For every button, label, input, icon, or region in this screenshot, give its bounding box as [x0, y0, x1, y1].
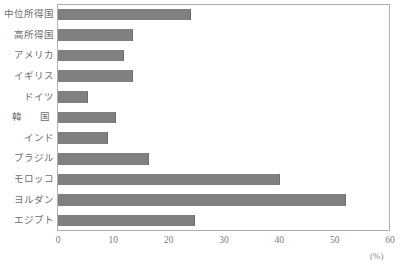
bar-track [58, 4, 390, 25]
category-label: 韓 国 [12, 107, 54, 128]
bar [58, 50, 124, 62]
category-label: ヨルダン [14, 190, 54, 211]
bar [58, 91, 88, 103]
bar-rows: 中位所得国高所得国アメリカイギリスドイツ韓 国インドブラジルモロッコヨルダンエジ… [0, 4, 405, 231]
category-label: イギリス [14, 66, 54, 87]
bar-row: インド [0, 128, 405, 149]
x-tick-label: 60 [370, 231, 405, 249]
bar-row: イギリス [0, 66, 405, 87]
bar-chart: 中位所得国高所得国アメリカイギリスドイツ韓 国インドブラジルモロッコヨルダンエジ… [0, 0, 405, 272]
bar-track [58, 128, 390, 149]
x-axis-tick-labels: 0102030405060 [0, 231, 405, 251]
bar-track [58, 25, 390, 46]
x-tick-label: 30 [204, 231, 244, 249]
bar-track [58, 148, 390, 169]
bar [58, 132, 108, 144]
bar-track [58, 45, 390, 66]
bar-row: 韓 国 [0, 107, 405, 128]
category-label: インド [24, 128, 54, 149]
category-label: アメリカ [14, 45, 54, 66]
category-label: 高所得国 [14, 25, 54, 46]
bar-track [58, 169, 390, 190]
bar-row: 高所得国 [0, 25, 405, 46]
bar-track [58, 190, 390, 211]
bar [58, 174, 280, 186]
bar-track [58, 66, 390, 87]
bar-row: 中位所得国 [0, 4, 405, 25]
bar-track [58, 87, 390, 108]
bar-track [58, 210, 390, 231]
bar-track [58, 107, 390, 128]
bar [58, 215, 195, 227]
x-tick-label: 40 [259, 231, 299, 249]
bar-row: ドイツ [0, 87, 405, 108]
x-tick-label: 20 [149, 231, 189, 249]
bar [58, 29, 133, 41]
bar-row: アメリカ [0, 45, 405, 66]
x-axis-unit-label: (%) [370, 251, 384, 261]
category-label: エジプト [14, 210, 54, 231]
bar-row: エジプト [0, 210, 405, 231]
bar [58, 112, 116, 124]
category-label: ブラジル [14, 148, 54, 169]
category-label: 中位所得国 [4, 4, 54, 25]
bar [58, 194, 346, 206]
category-label: ドイツ [24, 87, 54, 108]
bar [58, 9, 191, 21]
bar-row: ブラジル [0, 148, 405, 169]
x-tick-label: 10 [93, 231, 133, 249]
bar-row: ヨルダン [0, 190, 405, 211]
x-tick-label: 0 [38, 231, 78, 249]
bar [58, 153, 149, 165]
category-label: モロッコ [14, 169, 54, 190]
x-tick-label: 50 [315, 231, 355, 249]
bar-row: モロッコ [0, 169, 405, 190]
bar [58, 70, 133, 82]
